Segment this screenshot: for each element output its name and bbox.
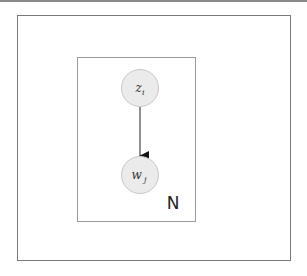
node-w[interactable]: wj [122, 157, 159, 194]
plate-label: N [167, 193, 180, 213]
node-z[interactable]: zi [122, 70, 159, 107]
plate-diagram: zi wj N [0, 0, 307, 276]
